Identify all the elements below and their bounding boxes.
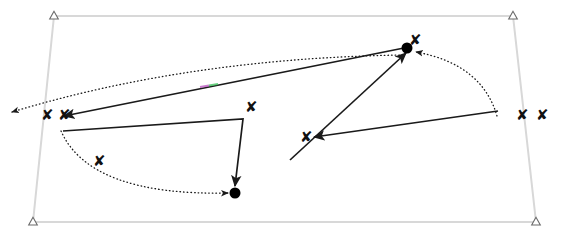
waypoint-marker[interactable]: ✘ <box>58 108 71 123</box>
waypoint-marker[interactable]: ✘ <box>536 108 549 123</box>
diagram-canvas: ✘✘✘✘✘✘✘✘ <box>0 0 570 238</box>
dotted-bottom-left-arc <box>61 131 228 193</box>
workspace-boundary <box>29 11 541 225</box>
endpoint-bottom-left <box>230 188 241 199</box>
waypoint-marker[interactable]: ✘ <box>93 154 106 169</box>
dotted-right-descending-arc <box>416 52 497 116</box>
executed-paths-group <box>63 48 498 186</box>
trajectory-scene <box>0 0 570 238</box>
waypoint-marker[interactable]: ✘ <box>409 33 422 48</box>
path-main-diagonal <box>64 48 404 116</box>
goal-dots-group <box>230 43 413 199</box>
waypoint-marker[interactable]: ✘ <box>41 108 54 123</box>
dotted-long-arc-to-left <box>12 55 403 112</box>
path-lower-left-hook <box>63 119 243 186</box>
waypoint-marker[interactable]: ✘ <box>516 108 529 123</box>
waypoint-marker[interactable]: ✘ <box>300 130 313 145</box>
waypoint-marker[interactable]: ✘ <box>245 100 258 115</box>
path-right-to-left-marker <box>314 111 498 137</box>
planned-paths-group <box>12 52 497 193</box>
boundary-outline <box>33 16 536 222</box>
